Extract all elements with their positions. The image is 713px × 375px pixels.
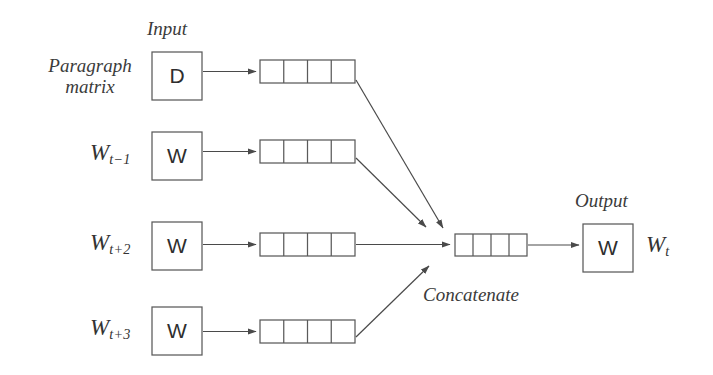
concatenate-label: Concatenate	[423, 284, 519, 305]
arrow-word-t-plus-3-vector-to-concat	[356, 266, 429, 337]
output-label-word-t-base: W	[646, 232, 665, 257]
input-label-word-t-plus-2-sub: t+2	[109, 241, 131, 257]
paragraph-matrix-label-line1: Paragraph	[34, 55, 146, 76]
output-label-word-t-sub: t	[665, 243, 669, 259]
input-label-word-t-minus-1-base: W	[90, 140, 109, 165]
input-label-word-t-plus-2: Wt+2	[90, 230, 131, 258]
input-section-label: Input	[147, 18, 187, 39]
input-box-paragraph	[152, 52, 202, 100]
input-box-word-t-plus-3	[152, 307, 202, 355]
input-box-word-t-minus-1	[152, 132, 202, 180]
input-label-word-t-minus-1: Wt−1	[90, 140, 131, 168]
output-label-word-t: Wt	[646, 232, 669, 260]
output-box	[583, 224, 633, 272]
input-label-word-t-plus-2-base: W	[90, 230, 109, 255]
diagram-canvas: D W W W W Input Output Concatenate Parag…	[0, 0, 713, 375]
input-box-word-t-plus-2	[152, 222, 202, 270]
arrow-word-t-minus-1-vector-to-concat	[356, 158, 426, 227]
arrow-paragraph-vector-to-concat	[356, 80, 443, 228]
paragraph-matrix-label: Paragraph matrix	[34, 55, 146, 98]
input-label-word-t-plus-3-sub: t+3	[109, 326, 131, 342]
input-label-word-t-minus-1-sub: t−1	[109, 151, 131, 167]
input-label-word-t-plus-3: Wt+3	[90, 315, 131, 343]
paragraph-matrix-label-line2: matrix	[34, 76, 146, 97]
input-label-word-t-plus-3-base: W	[90, 315, 109, 340]
output-section-label: Output	[575, 190, 628, 211]
